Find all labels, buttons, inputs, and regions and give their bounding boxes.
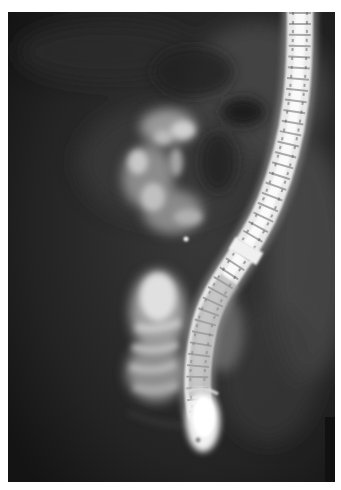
xray-svg: [8, 12, 335, 482]
xray-image: [8, 12, 335, 482]
image-frame: [0, 0, 341, 490]
edge-strip: [325, 417, 335, 482]
